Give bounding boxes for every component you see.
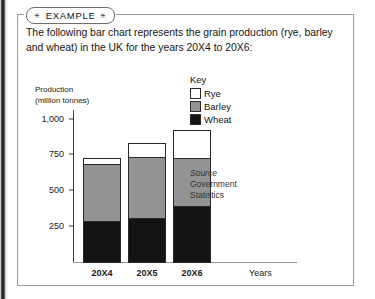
legend-item-rye: Rye xyxy=(190,88,231,99)
bar-segment-wheat xyxy=(129,219,165,262)
example-tag: ✳ EXAMPLE ✳ xyxy=(26,7,115,24)
y-axis-tick-mark xyxy=(69,190,74,191)
source-line: Statistics xyxy=(190,190,280,201)
bar-chart: Production (million tonnes) 2505007501,0… xyxy=(17,82,354,282)
y-axis-tick-label: 250 xyxy=(17,221,64,231)
legend-item-barley: Barley xyxy=(190,101,231,112)
legend-swatch-icon xyxy=(190,101,201,112)
y-axis-tick-label: 1,000 xyxy=(17,114,64,124)
example-description: The following bar chart represents the g… xyxy=(26,26,338,55)
source-note: Source Government Statistics xyxy=(190,168,280,201)
y-axis-line xyxy=(73,110,74,263)
bar-segment-rye xyxy=(174,131,210,158)
bar-20X4 xyxy=(83,158,121,263)
x-axis-tick-label: 20X6 xyxy=(162,268,222,278)
legend-item-wheat: Wheat xyxy=(190,114,231,125)
legend-item-label: Wheat xyxy=(204,114,231,125)
bar-segment-rye xyxy=(129,144,165,157)
y-axis-title: Production (million tonnes) xyxy=(35,85,115,106)
star-icon: ✳ xyxy=(100,12,107,19)
star-icon: ✳ xyxy=(34,12,41,19)
bar-20X5 xyxy=(128,143,166,263)
example-tag-label: EXAMPLE xyxy=(46,10,96,21)
y-axis-tick-label: 500 xyxy=(17,185,64,195)
y-axis-title-line2: (million tonnes) xyxy=(35,96,115,107)
page-edge xyxy=(6,0,8,299)
legend-rows: RyeBarleyWheat xyxy=(190,88,231,125)
chart-legend: Key RyeBarleyWheat xyxy=(190,74,231,127)
legend-swatch-icon xyxy=(190,88,201,99)
x-axis-title: Years xyxy=(249,268,272,278)
bar-segment-wheat xyxy=(174,207,210,262)
y-axis-tick-mark xyxy=(69,154,74,155)
y-axis-tick-label: 750 xyxy=(17,149,64,159)
y-axis-title-line1: Production xyxy=(35,85,115,96)
legend-item-label: Barley xyxy=(204,101,231,112)
legend-swatch-icon xyxy=(190,114,201,125)
bar-segment-wheat xyxy=(84,222,120,262)
legend-title: Key xyxy=(190,74,231,85)
bar-segment-barley xyxy=(129,158,165,219)
legend-item-label: Rye xyxy=(204,88,221,99)
bar-segment-barley xyxy=(84,165,120,221)
y-axis-tick-mark xyxy=(69,118,74,119)
source-label: Source xyxy=(190,168,217,178)
y-axis-tick-mark xyxy=(69,226,74,227)
source-line: Government xyxy=(190,179,280,190)
